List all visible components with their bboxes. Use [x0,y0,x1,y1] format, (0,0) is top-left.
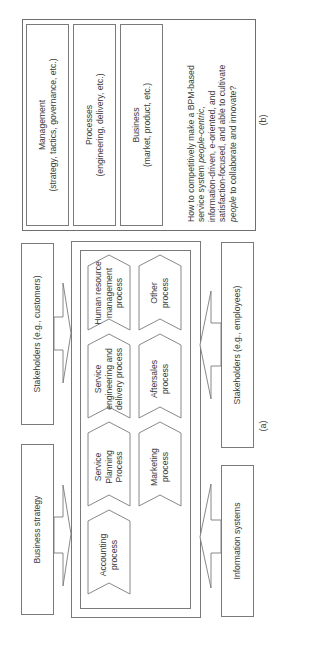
other-process-label: Other process [139,258,181,328]
service-planning-process-label: Service Planning Process [88,432,130,502]
marketing-process-label: Marketing process [139,432,181,502]
panel-a-label: (a) [256,414,270,438]
hr-management-process-label: Human resource management process [88,258,130,328]
aftersales-process-label: Aftersales process [139,344,181,414]
arrow-right-icon [54,283,71,383]
accounting-process-label: Accounting process [88,520,130,590]
arrow-right-icon [54,485,71,586]
service-engineering-process-label: Service engineering and delivery process [88,344,130,414]
arrow-left-icon [200,484,221,588]
arrow-left-icon [200,291,221,399]
